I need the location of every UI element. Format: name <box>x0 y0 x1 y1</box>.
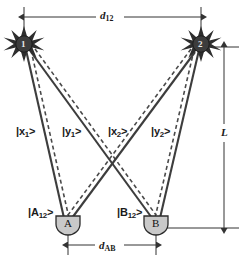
path-label-x1-prefix: |x <box>16 125 25 137</box>
dimension-label-dAB: dAB <box>99 240 115 251</box>
detector-a-label: A <box>64 218 72 229</box>
detector-a-state-prefix: |A <box>28 206 39 218</box>
path-label-y1: |y1> <box>62 126 81 137</box>
dimension-label-d12-prefix: d <box>100 9 106 21</box>
detector-b-state-sub: 12 <box>128 211 136 220</box>
path-label-y1-sub: 1 <box>71 130 75 139</box>
dimension-label-L: L <box>221 127 228 138</box>
source-1-number: 1 <box>21 40 26 49</box>
path-label-y2-sub: 2 <box>160 130 164 139</box>
path-label-y2-suffix: > <box>164 125 170 137</box>
path-label-x2-suffix: > <box>121 125 127 137</box>
dimension-label-L-prefix: L <box>221 126 228 138</box>
path-label-x2-prefix: |x <box>108 125 117 137</box>
detector-a-state-label: |A12> <box>28 207 53 218</box>
detector-b-state-suffix: > <box>136 206 142 218</box>
interferometer-figure: 1 2 A B |x1> |y1> |x2> |y2> |A12> |B12> … <box>0 0 243 261</box>
detector-b-state-prefix: |B <box>117 206 128 218</box>
path-label-y1-prefix: |y <box>62 125 71 137</box>
detector-b-state-label: |B12> <box>117 207 142 218</box>
detector-a-state-sub: 12 <box>39 211 47 220</box>
path-label-x1-suffix: > <box>29 125 35 137</box>
detector-b-label: B <box>152 218 159 229</box>
dimension-label-dAB-prefix: d <box>99 239 105 251</box>
path-label-x2: |x2> <box>108 126 127 137</box>
path-label-x2-sub: 2 <box>117 130 121 139</box>
source-2-number: 2 <box>198 40 203 49</box>
path-label-x1: |x1> <box>16 126 35 137</box>
path-label-x1-sub: 1 <box>25 130 29 139</box>
dimension-label-dAB-sub: AB <box>105 244 116 253</box>
dimension-label-d12-sub: 12 <box>106 14 114 23</box>
dimension-label-d12: d12 <box>100 10 113 21</box>
beam-path-x2 <box>68 49 195 218</box>
path-label-y2-prefix: |y <box>151 125 160 137</box>
path-label-y1-suffix: > <box>75 125 81 137</box>
path-label-y2: |y2> <box>151 126 170 137</box>
detector-a-state-suffix: > <box>47 206 53 218</box>
